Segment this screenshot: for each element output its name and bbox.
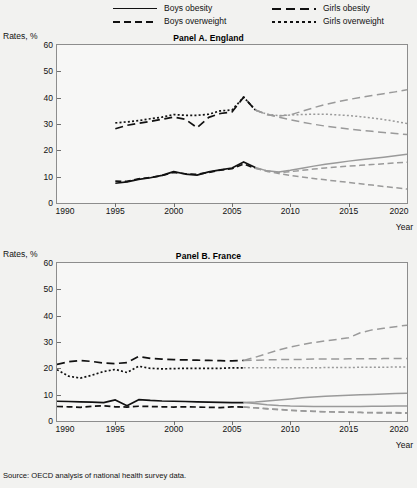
source-note: Source: OECD analysis of national health…	[3, 471, 186, 480]
legend-label: Boys overweight	[164, 17, 226, 26]
legend-item-boys-overweight: Boys overweight	[113, 16, 226, 27]
series-line	[57, 406, 244, 408]
series-canvas	[57, 45, 407, 203]
x-axis-tick-label: 2015	[339, 424, 358, 434]
y-axis-tick-label: 30	[44, 337, 53, 347]
x-axis-tick-mark	[115, 421, 116, 425]
panel-b-plot-area: 0102030405060199019952000200520102015202…	[56, 262, 408, 422]
x-axis-tick-label: 1995	[106, 424, 125, 434]
series-line	[57, 366, 244, 378]
x-axis-tick-mark	[232, 421, 233, 425]
y-axis-tick-label: 20	[44, 363, 53, 373]
x-axis-tick-mark	[232, 203, 233, 207]
x-axis-tick-label: 2010	[281, 206, 300, 216]
series-line	[115, 97, 255, 129]
x-axis-tick-label: 2005	[223, 424, 242, 434]
series-line	[255, 110, 407, 123]
x-axis-tick-label: 2000	[164, 206, 183, 216]
x-axis-tick-label: 2020	[390, 206, 409, 216]
y-axis-tick-label: 40	[44, 311, 53, 321]
x-axis-tick-mark	[349, 203, 350, 207]
series-line	[255, 90, 407, 116]
legend-label: Girls overweight	[323, 17, 384, 26]
dotted-line-swatch	[272, 17, 316, 26]
panel-a-title: Panel A. England	[0, 33, 417, 43]
x-axis-tick-label: 2005	[223, 206, 242, 216]
legend-item-girls-obesity: Girls obesity	[272, 3, 370, 14]
x-axis-tick-label: 1990	[56, 206, 75, 216]
legend-item-girls-overweight: Girls overweight	[272, 16, 384, 27]
series-line	[57, 400, 244, 406]
x-axis-title: Year	[396, 440, 413, 450]
y-axis-tick-label: 10	[44, 390, 53, 400]
panel-b-france: Rates, % Panel B. France 010203040506019…	[0, 249, 417, 454]
series-line	[244, 367, 407, 368]
x-axis-tick-mark	[174, 421, 175, 425]
x-axis-tick-label: 1995	[106, 206, 125, 216]
dashed-line-swatch	[113, 17, 157, 26]
x-axis-tick-mark	[290, 203, 291, 207]
x-axis-tick-mark	[115, 203, 116, 207]
x-axis-tick-mark	[290, 421, 291, 425]
y-axis-tick-label: 0	[48, 198, 53, 208]
x-axis-tick-label: 1990	[56, 424, 75, 434]
x-axis-tick-label: 2000	[164, 424, 183, 434]
x-axis-tick-label: 2020	[390, 424, 409, 434]
series-canvas	[57, 263, 407, 421]
panel-a-plot-area: 0102030405060199019952000200520102015202…	[56, 44, 408, 204]
x-axis-tick-label: 2010	[281, 424, 300, 434]
y-axis-tick-label: 60	[44, 40, 53, 50]
y-axis-tick-label: 40	[44, 93, 53, 103]
y-axis-tick-label: 50	[44, 284, 53, 294]
long-dashed-line-swatch	[272, 4, 316, 13]
series-line	[244, 403, 407, 407]
y-axis-tick-label: 20	[44, 145, 53, 155]
x-axis-title: Year	[396, 222, 413, 232]
y-axis-tick-label: 30	[44, 119, 53, 129]
figure-root: Boys obesity Boys overweight Girls obesi…	[0, 0, 417, 488]
series-line	[244, 407, 407, 413]
panel-b-title: Panel B. France	[0, 251, 417, 261]
series-line	[255, 110, 407, 134]
panel-a-england: Rates, % Panel A. England 01020304050601…	[0, 31, 417, 236]
series-line	[244, 359, 407, 361]
solid-line-swatch	[113, 4, 157, 13]
chart-legend: Boys obesity Boys overweight Girls obesi…	[0, 0, 417, 30]
legend-label: Girls obesity	[323, 4, 370, 13]
y-axis-tick-label: 60	[44, 258, 53, 268]
legend-label: Boys obesity	[164, 4, 212, 13]
series-line	[255, 154, 407, 172]
x-axis-tick-mark	[349, 421, 350, 425]
series-line	[244, 393, 407, 402]
series-line	[57, 356, 244, 364]
x-axis-tick-mark	[174, 203, 175, 207]
legend-item-boys-obesity: Boys obesity	[113, 3, 212, 14]
y-axis-tick-label: 50	[44, 66, 53, 76]
series-line	[244, 325, 407, 360]
x-axis-tick-label: 2015	[339, 206, 358, 216]
y-axis-tick-label: 10	[44, 172, 53, 182]
y-axis-tick-label: 0	[48, 416, 53, 426]
